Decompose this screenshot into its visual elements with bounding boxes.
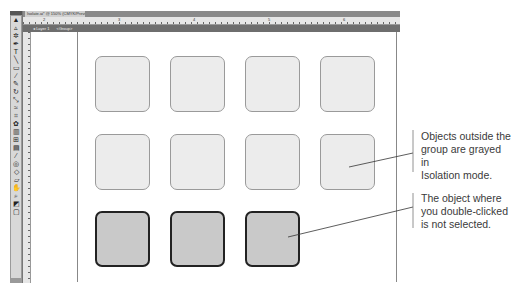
callout-line: you double-clicked <box>421 205 508 218</box>
callout-line: group are grayed in <box>421 143 511 169</box>
callout-line: Objects outside the <box>421 130 511 143</box>
callout-grayed-objects: Objects outside the group are grayed in … <box>421 130 511 182</box>
callout-line: Isolation mode. <box>421 169 511 182</box>
callout-line: The object where <box>421 192 508 205</box>
callout-double-clicked: The object where you double-clicked is n… <box>421 192 508 231</box>
callout-line: is not selected. <box>421 218 508 231</box>
